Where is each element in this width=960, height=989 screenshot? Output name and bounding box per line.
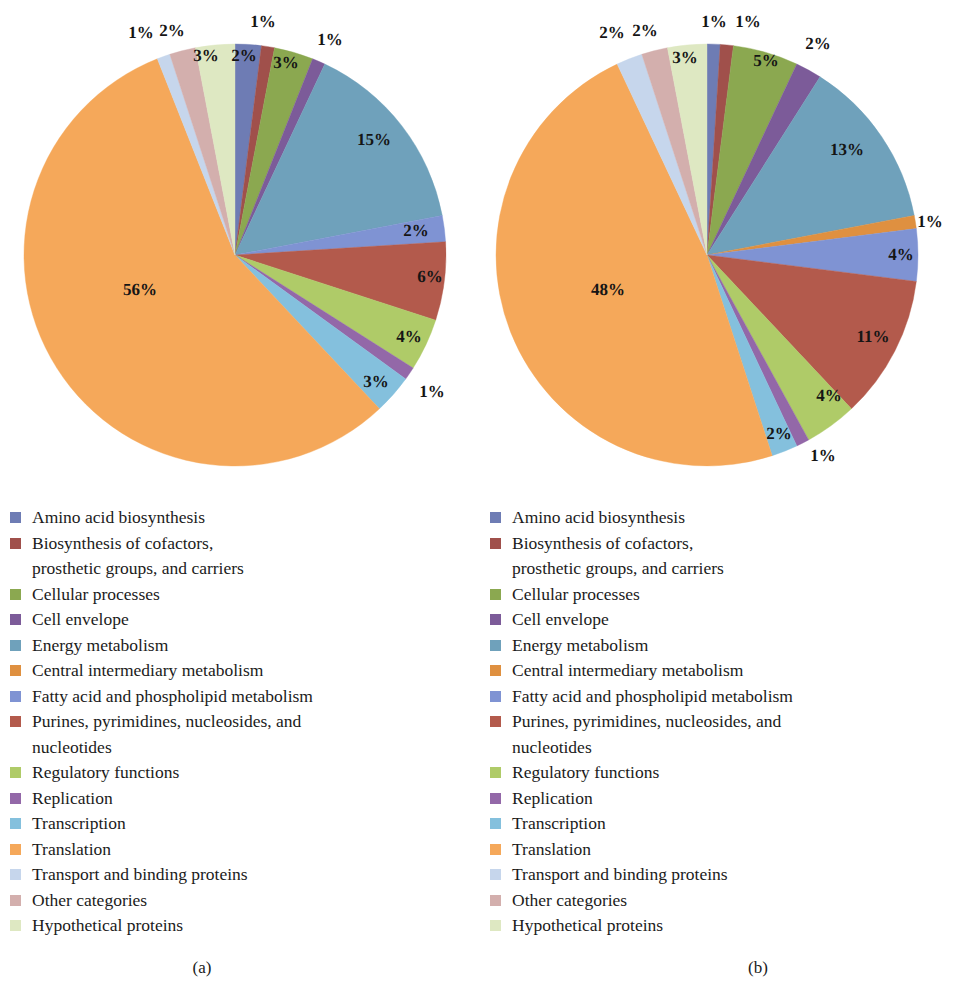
pie-percent-label: 48% [591,280,625,300]
legend-item[interactable]: Fatty acid and phospholipid metabolism [10,684,480,710]
pie-percent-label: 3% [273,53,299,73]
legend-swatch-icon [490,665,501,676]
legend-item[interactable]: Biosynthesis of cofactors,prosthetic gro… [490,531,960,582]
pie-percent-label: 1% [701,12,727,32]
legend-swatch-icon [490,538,501,549]
pie-percent-label: 5% [753,51,779,71]
legend-swatch-icon [490,640,501,651]
legend-item[interactable]: Cell envelope [10,607,480,633]
legend-swatch-icon [490,614,501,625]
legend-item-label: Transport and binding proteins [32,862,248,888]
legend-item-label: Central intermediary metabolism [512,658,743,684]
legend-item[interactable]: Hypothetical proteins [490,913,960,939]
legend-swatch-icon [490,844,501,855]
legend-item-label: Replication [512,786,593,812]
pie-percent-label: 56% [123,280,157,300]
legend-swatch-icon [10,869,21,880]
legend-item-label: Cellular processes [32,582,160,608]
legend-item[interactable]: Central intermediary metabolism [10,658,480,684]
legend-swatch-icon [490,920,501,931]
legend-swatch-icon [10,512,21,523]
legend-item-label: Translation [512,837,591,863]
legend-item-label: Transport and binding proteins [512,862,728,888]
pie-percent-label: 4% [396,327,422,347]
legend-swatch-icon [490,512,501,523]
legend-swatch-icon [490,818,501,829]
legend-item[interactable]: Purines, pyrimidines, nucleosides, andnu… [10,709,480,760]
panel-b: 2%2%3%1%1%5%2%13%1%4%11%4%2%1%48% Amino … [480,0,960,989]
legend-item[interactable]: Central intermediary metabolism [490,658,960,684]
pie-percent-label: 1% [317,30,343,50]
pie-chart-b: 2%2%3%1%1%5%2%13%1%4%11%4%2%1%48% [480,0,960,495]
legend-item[interactable]: Cell envelope [490,607,960,633]
legend-item[interactable]: Transport and binding proteins [490,862,960,888]
legend-item[interactable]: Amino acid biosynthesis [10,505,480,531]
legend-item[interactable]: Replication [490,786,960,812]
legend-item[interactable]: Other categories [10,888,480,914]
legend-item[interactable]: Biosynthesis of cofactors,prosthetic gro… [10,531,480,582]
panel-caption-b: (b) [518,958,960,978]
pie-percent-label: 15% [357,130,391,150]
legend-item-label: Purines, pyrimidines, nucleosides, andnu… [32,709,301,760]
legend-item-label: Transcription [32,811,126,837]
legend-item-label: Amino acid biosynthesis [32,505,205,531]
legend-swatch-icon [490,691,501,702]
pie-percent-label: 2% [159,21,185,41]
pie-percent-label: 1% [128,23,154,43]
legend-swatch-icon [490,793,501,804]
legend-item-label: Biosynthesis of cofactors,prosthetic gro… [512,531,724,582]
pie-percent-label: 11% [856,327,889,347]
legend-item[interactable]: Translation [490,837,960,863]
legend-swatch-icon [490,895,501,906]
pie-percent-label: 4% [816,386,842,406]
legend-swatch-icon [10,691,21,702]
legend-item[interactable]: Regulatory functions [490,760,960,786]
legend-item[interactable]: Translation [10,837,480,863]
pie-percent-label: 1% [419,382,445,402]
legend-item[interactable]: Hypothetical proteins [10,913,480,939]
pie-percent-label: 3% [193,46,219,66]
pie-percent-label: 3% [363,372,389,392]
pie-percent-label: 13% [830,140,864,160]
pie-percent-label: 2% [632,21,658,41]
legend-item[interactable]: Transcription [10,811,480,837]
pie-percent-label: 2% [805,34,831,54]
legend-item-label: Cell envelope [32,607,129,633]
legend-item[interactable]: Cellular processes [490,582,960,608]
legend-swatch-icon [10,665,21,676]
legend-swatch-icon [10,589,21,600]
legend-item[interactable]: Regulatory functions [10,760,480,786]
legend-item-label: Hypothetical proteins [32,913,183,939]
legend-item-label: Biosynthesis of cofactors,prosthetic gro… [32,531,244,582]
legend-item-label-continued: nucleotides [32,735,301,761]
pie-percent-label: 1% [917,212,943,232]
legend-item-label: Purines, pyrimidines, nucleosides, andnu… [512,709,781,760]
pie-percent-label: 2% [766,424,792,444]
pie-chart-a-svg [0,0,480,495]
legend-item-label-continued: prosthetic groups, and carriers [512,556,724,582]
legend-item-label: Cellular processes [512,582,640,608]
legend-item-label: Energy metabolism [512,633,648,659]
pie-percent-label: 4% [888,245,914,265]
legend-swatch-icon [10,844,21,855]
legend-item[interactable]: Other categories [490,888,960,914]
legend-item[interactable]: Amino acid biosynthesis [490,505,960,531]
legend-item-label: Amino acid biosynthesis [512,505,685,531]
legend-swatch-icon [10,640,21,651]
legend-item-label: Cell envelope [512,607,609,633]
legend-a: Amino acid biosynthesisBiosynthesis of c… [0,505,480,939]
pie-chart-a: 1%2%3%2%1%3%1%15%2%6%4%3%1%56% [0,0,480,495]
legend-item[interactable]: Fatty acid and phospholipid metabolism [490,684,960,710]
legend-item[interactable]: Cellular processes [10,582,480,608]
legend-b: Amino acid biosynthesisBiosynthesis of c… [480,505,960,939]
legend-item[interactable]: Energy metabolism [10,633,480,659]
legend-item[interactable]: Transcription [490,811,960,837]
legend-item-label: Central intermediary metabolism [32,658,263,684]
legend-swatch-icon [10,895,21,906]
legend-item[interactable]: Energy metabolism [490,633,960,659]
legend-item[interactable]: Replication [10,786,480,812]
legend-swatch-icon [490,589,501,600]
pie-percent-label: 6% [417,267,443,287]
legend-item[interactable]: Transport and binding proteins [10,862,480,888]
legend-item[interactable]: Purines, pyrimidines, nucleosides, andnu… [490,709,960,760]
